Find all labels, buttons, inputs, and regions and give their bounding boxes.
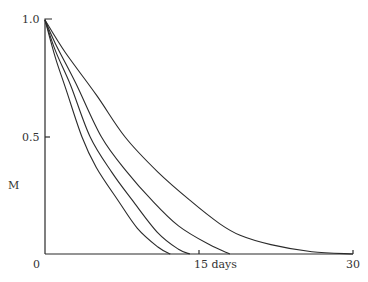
x-tick-label-30: 30 (346, 258, 360, 271)
curve-3 (45, 20, 230, 254)
curve-4 (45, 20, 353, 254)
x-tick-label-15: 15 days (194, 258, 237, 271)
origin-label: 0 (33, 258, 40, 271)
y-tick-label-1: 1.0 (22, 13, 40, 26)
curve-1 (45, 20, 170, 254)
y-axis-label: M (8, 179, 19, 192)
decay-chart: 1.0 0.5 M 0 15 days 30 (0, 0, 368, 282)
curves (45, 20, 353, 254)
y-tick-label-0.5: 0.5 (22, 131, 40, 144)
